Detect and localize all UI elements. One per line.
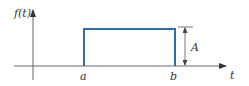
x-axis-label: t xyxy=(230,69,235,82)
amplitude-label: A xyxy=(190,41,199,54)
pulse-end-label: b xyxy=(170,70,177,83)
pulse-diagram: f(t) t a b A xyxy=(0,0,249,86)
pulse-start-label: a xyxy=(80,70,87,83)
pulse-waveform xyxy=(84,29,175,66)
y-axis-label: f(t) xyxy=(13,7,31,20)
